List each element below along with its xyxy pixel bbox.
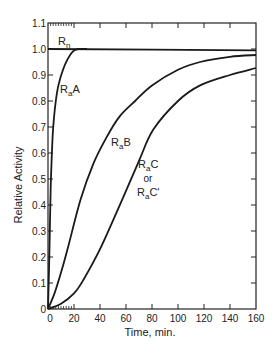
y-tick-label: 1.1 — [32, 18, 46, 29]
curve-label: RaB — [111, 136, 131, 151]
y-tick-label: 0.7 — [32, 122, 46, 133]
curve-label-or: or — [144, 173, 154, 184]
x-tick-label: 0 — [47, 313, 53, 324]
x-tick-label: 80 — [146, 313, 158, 324]
x-tick-label: 60 — [120, 313, 132, 324]
x-tick-label: 120 — [196, 313, 213, 324]
x-tick-label: 100 — [170, 313, 187, 324]
curve-labels: RnRaARaBRaCorRaC' — [58, 35, 159, 201]
y-tick-label: 0.4 — [32, 200, 46, 211]
x-tick-label: 40 — [94, 313, 106, 324]
x-tick-label: 160 — [248, 313, 265, 324]
x-tick-label: 20 — [68, 313, 80, 324]
x-tick-label: 140 — [222, 313, 239, 324]
y-tick-label: 0.9 — [32, 70, 46, 81]
y-tick-label: 0.6 — [32, 148, 46, 159]
y-tick-label: 0 — [40, 304, 46, 315]
curve-label: RaC — [138, 158, 158, 173]
relative-activity-chart: 02040608010012014016000.10.20.30.40.50.6… — [0, 0, 277, 353]
curve-label: RaA — [60, 83, 80, 98]
y-tick-label: 0.8 — [32, 96, 46, 107]
curve-label: RaC' — [137, 186, 159, 201]
x-axis-label: Time, min. — [125, 326, 176, 338]
y-tick-label: 0.3 — [32, 226, 46, 237]
y-tick-label: 1.0 — [32, 44, 46, 55]
y-axis-label: Relative Activity — [12, 146, 24, 224]
y-tick-label: 0.1 — [32, 278, 46, 289]
curve-label: Rn — [58, 35, 70, 50]
y-tick-label: 0.2 — [32, 252, 46, 263]
y-tick-label: 0.5 — [32, 174, 46, 185]
